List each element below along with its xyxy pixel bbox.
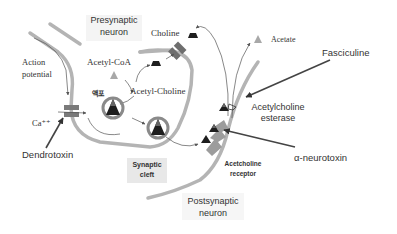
synaptic-cleft-label-2: cleft xyxy=(140,171,155,178)
esterase-label-1: Acetylcholine xyxy=(251,102,304,112)
esterase-label-2: esterase xyxy=(261,113,296,123)
vesicle-move-arrow xyxy=(132,118,145,124)
choline-label: Choline xyxy=(151,28,180,38)
postsynaptic-label-1: Postsynaptic xyxy=(187,196,239,206)
receptor-label-1: Acetcholine xyxy=(225,160,262,167)
calcium-label: Ca⁺⁺ xyxy=(32,118,50,128)
vesicle-korean-label: 액포 xyxy=(92,89,105,98)
action-potential-label-1: Action xyxy=(22,57,46,67)
presynaptic-label-2: neuron xyxy=(100,27,128,37)
ap-depolarize-arrow xyxy=(88,118,120,135)
terminal-membrane-top xyxy=(140,50,172,52)
dendrotoxin-label: Dendrotoxin xyxy=(22,149,73,160)
acetate-label: Acetate xyxy=(271,35,296,44)
acetyl-coa-label: Acetyl-CoA xyxy=(87,57,131,67)
action-potential-label-2: potential xyxy=(22,69,52,79)
choline-uptake-arrow xyxy=(166,54,174,59)
acetyl-choline-label: Acetyl-Choline xyxy=(130,86,186,96)
diagram-canvas: Presynaptic neuron Action potential Acet… xyxy=(0,0,397,234)
presynaptic-label-1: Presynaptic xyxy=(90,15,138,25)
choline-recycle-arrow xyxy=(136,65,150,82)
ach-receptor xyxy=(201,120,228,156)
alpha-neurotoxin-arrow xyxy=(224,130,295,147)
alpha-neurotoxin-label: α-neurotoxin xyxy=(294,152,347,163)
postsynaptic-label-2: neuron xyxy=(199,208,227,218)
fasciculine-label: Fasciculine xyxy=(322,47,370,58)
calcium-influx-arrow xyxy=(58,112,86,113)
choline-molecule-outside xyxy=(188,33,198,38)
choline-molecule-inside xyxy=(151,61,161,66)
choline-return-arrow xyxy=(196,27,228,117)
synapse-diagram: Presynaptic neuron Action potential Acet… xyxy=(0,0,397,234)
fasciculine-arrow xyxy=(246,60,330,97)
axon-membrane-outer xyxy=(50,24,80,44)
vesicle-1 xyxy=(103,98,123,118)
acetyl-coa-molecule xyxy=(110,71,118,79)
acetate-molecule xyxy=(254,35,262,43)
receptor-label-2: receptor xyxy=(230,170,256,178)
vesicle-2 xyxy=(148,118,168,138)
synaptic-cleft-label-1: Synaptic xyxy=(132,161,161,169)
